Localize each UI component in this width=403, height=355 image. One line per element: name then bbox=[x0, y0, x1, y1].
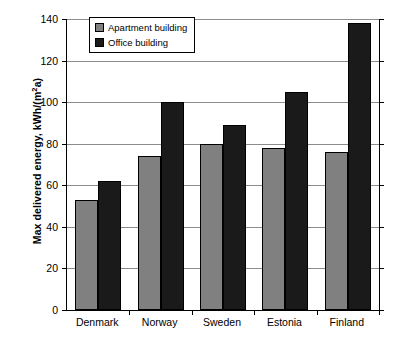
bar-group bbox=[317, 19, 379, 310]
bar-group bbox=[129, 19, 191, 310]
x-axis-category-label: Finland bbox=[316, 316, 378, 328]
y-axis-tick-mark-right bbox=[379, 227, 384, 228]
y-axis-tick-mark bbox=[62, 61, 67, 62]
legend-label-office-building: Office building bbox=[108, 37, 168, 48]
legend-swatch-apartment-icon bbox=[95, 23, 104, 32]
x-axis-category-label: Sweden bbox=[191, 316, 253, 328]
bar bbox=[138, 156, 161, 310]
y-axis-tick-label: 140 bbox=[22, 13, 58, 25]
y-axis-tick-mark bbox=[62, 310, 67, 311]
bar-groups bbox=[67, 19, 379, 310]
y-axis-tick-label: 20 bbox=[22, 262, 58, 274]
x-axis-category-label: Estonia bbox=[253, 316, 315, 328]
y-axis-tick-mark-right bbox=[379, 268, 384, 269]
bar bbox=[200, 144, 223, 310]
y-axis-tick-mark-right bbox=[379, 144, 384, 145]
bar bbox=[98, 181, 121, 310]
y-axis-tick-mark bbox=[62, 185, 67, 186]
x-axis-tick-mark bbox=[192, 310, 193, 315]
y-axis-tick-mark-right bbox=[379, 61, 384, 62]
y-axis-tick-mark bbox=[62, 144, 67, 145]
bar-group bbox=[67, 19, 129, 310]
y-axis-tick-label: 0 bbox=[22, 304, 58, 316]
bar bbox=[325, 152, 348, 310]
bar bbox=[285, 92, 308, 310]
y-axis-tick-mark bbox=[62, 19, 67, 20]
y-axis-tick-label: 60 bbox=[22, 179, 58, 191]
y-axis-tick-label: 40 bbox=[22, 221, 58, 233]
y-axis-tick-labels: 020406080100120140 bbox=[22, 19, 58, 310]
bar bbox=[161, 102, 184, 310]
legend-swatch-office-icon bbox=[95, 38, 104, 47]
x-axis-category-label: Norway bbox=[128, 316, 190, 328]
legend: Apartment building Office building bbox=[89, 17, 195, 53]
legend-label-apartment-building: Apartment building bbox=[108, 22, 187, 33]
x-axis-tick-mark bbox=[254, 310, 255, 315]
bar-chart: Max delivered energy, kWh/(m2a) 02040608… bbox=[0, 0, 403, 355]
bar-group bbox=[254, 19, 316, 310]
y-axis-tick-label: 120 bbox=[22, 55, 58, 67]
y-axis-tick-label: 100 bbox=[22, 96, 58, 108]
y-axis-tick-mark bbox=[62, 268, 67, 269]
legend-item-apartment-building: Apartment building bbox=[95, 22, 187, 33]
y-axis-tick-mark-right bbox=[379, 310, 384, 311]
x-axis-tick-mark bbox=[129, 310, 130, 315]
y-axis-tick-label: 80 bbox=[22, 138, 58, 150]
bar bbox=[223, 125, 246, 310]
x-axis-category-labels: DenmarkNorwaySwedenEstoniaFinland bbox=[66, 316, 378, 328]
y-axis-tick-mark-right bbox=[379, 185, 384, 186]
bar bbox=[348, 23, 371, 310]
bar bbox=[262, 148, 285, 310]
y-axis-tick-mark-right bbox=[379, 19, 384, 20]
y-axis-tick-mark bbox=[62, 227, 67, 228]
legend-item-office-building: Office building bbox=[95, 37, 187, 48]
bar-group bbox=[192, 19, 254, 310]
plot-area bbox=[66, 19, 380, 311]
x-axis-tick-mark bbox=[317, 310, 318, 315]
bar bbox=[75, 200, 98, 310]
y-axis-tick-mark-right bbox=[379, 102, 384, 103]
y-axis-tick-mark bbox=[62, 102, 67, 103]
x-axis-category-label: Denmark bbox=[66, 316, 128, 328]
